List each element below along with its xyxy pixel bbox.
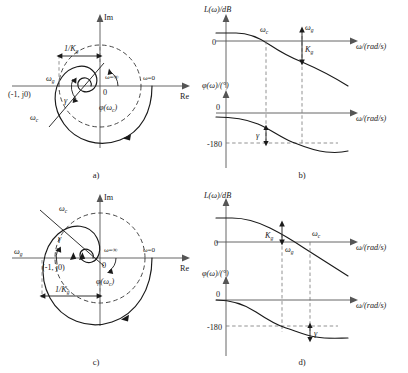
mag-axis-label-b: L(ω)/dB bbox=[203, 5, 231, 14]
phase-curve-b bbox=[216, 117, 348, 152]
phase-axis-label-b: φ(ω)/(°) bbox=[202, 81, 229, 90]
gain-margin-arrow-left-a bbox=[57, 53, 63, 59]
phase-margin-label-b: γ bbox=[256, 131, 260, 140]
phase-180-tick-b: -180 bbox=[207, 140, 222, 149]
panel-caption-d: d) bbox=[298, 357, 305, 367]
mag-zero-tick-b: 0 bbox=[212, 38, 216, 47]
omega-c-label-a: ωc bbox=[30, 113, 39, 123]
omega-c-label-c: ωc bbox=[59, 204, 68, 214]
phase-axis-label-d: φ(ω)/(°) bbox=[202, 269, 229, 278]
panel-caption-b: b) bbox=[298, 170, 305, 180]
axis-real-label-a: Re bbox=[180, 92, 189, 101]
omega-g-label-a: ωg bbox=[46, 74, 55, 84]
phase-angle-label-c: φ(ωc) bbox=[96, 277, 115, 287]
omega-g-label-c: ωg bbox=[14, 247, 23, 257]
omega-zero-label-a: ω=0 bbox=[143, 74, 156, 82]
omega-inf-label-a: ω=∞ bbox=[105, 73, 119, 81]
panel-caption-c: c) bbox=[93, 357, 100, 367]
critical-point-label-c: (-1, j0) bbox=[42, 263, 65, 272]
phase-angle-arrowhead-c bbox=[107, 268, 113, 274]
panel-b-bode-stable: L(ω)/dB 0 ω/(rad/s) ωc ωg Kg φ(ω)/(°) 0 … bbox=[198, 0, 408, 186]
mag-zero-tick-d: 0 bbox=[214, 239, 218, 248]
omega-g-label-d: ωg bbox=[285, 245, 294, 255]
gain-margin-arrow-left-c bbox=[40, 293, 46, 299]
phase-zero-tick-d: 0 bbox=[216, 290, 220, 299]
panel-a-nyquist-stable: Im Re 0 (-1, j0) ω=0 ω=∞ ωg ωc 1/Kg γ φ(… bbox=[0, 0, 200, 186]
axis-imag-arrow-c bbox=[97, 194, 104, 202]
freq-axis-label-phase-b: ω/(rad/s) bbox=[356, 114, 387, 123]
origin-label-a: 0 bbox=[103, 88, 107, 97]
axis-real-arrow-a bbox=[182, 83, 190, 90]
panel-caption-a: a) bbox=[93, 170, 100, 180]
omega-zero-label-c: ω=0 bbox=[143, 246, 156, 254]
gain-margin-arrow-up-b bbox=[299, 27, 305, 33]
phase-curve-d bbox=[216, 300, 348, 338]
mag-axis-label-d: L(ω)/dB bbox=[203, 191, 231, 200]
phase-margin-arrow-down-b bbox=[263, 141, 268, 146]
gain-margin-label-b: Kg bbox=[304, 45, 313, 55]
panel-d-bode-unstable: L(ω)/dB 0 ω/(rad/s) Kg ωg ωc φ(ω)/(°) 0 … bbox=[198, 186, 408, 373]
freq-axis-label-phase-d: ω/(rad/s) bbox=[356, 301, 387, 310]
axis-imag-arrow-a bbox=[97, 14, 104, 22]
figure-root: Im Re 0 (-1, j0) ω=0 ω=∞ ωg ωc 1/Kg γ φ(… bbox=[0, 0, 408, 373]
gain-margin-label-a: 1/Kg bbox=[64, 44, 79, 54]
omega-c-label-d: ωc bbox=[312, 229, 321, 239]
freq-axis-label-mag-d: ω/(rad/s) bbox=[356, 243, 387, 252]
axis-imag-label-c: Im bbox=[104, 193, 114, 202]
phase-margin-arrow-down-d bbox=[307, 337, 312, 342]
omega-c-label-b: ωc bbox=[260, 25, 269, 35]
axis-real-label-c: Re bbox=[180, 264, 189, 273]
phase-angle-label-a: φ(ωc) bbox=[99, 103, 118, 113]
phase-zero-tick-b: 0 bbox=[216, 103, 220, 112]
phase-180-tick-d: -180 bbox=[207, 323, 222, 332]
axis-real-arrow-c bbox=[182, 255, 190, 262]
critical-point-label-a: (-1, j0) bbox=[8, 90, 31, 99]
panel-c-nyquist-unstable: Im Re 0 (-1, j0) ω=0 ω=∞ ωg ωc 1/Kg γ φ(… bbox=[0, 186, 200, 373]
direction-arrow-a bbox=[123, 134, 131, 140]
origin-label-c: 0 bbox=[102, 261, 106, 270]
gain-margin-arrow-up-d bbox=[279, 221, 285, 227]
omega-c-radial-a bbox=[49, 63, 104, 127]
gain-margin-label-d: Kg bbox=[264, 231, 273, 241]
mag-yaxis-arrow-b bbox=[223, 14, 230, 22]
omega-inf-label-c: ω=∞ bbox=[104, 246, 118, 254]
axis-imag-label-a: Im bbox=[104, 13, 114, 22]
gain-margin-label-c: 1/Kg bbox=[55, 285, 70, 295]
phase-angle-arc-c bbox=[109, 258, 116, 271]
radial-arrow-1-c bbox=[70, 252, 76, 260]
phase-yaxis-arrow-b bbox=[223, 90, 230, 98]
omega-g-label-b: ωg bbox=[305, 23, 314, 33]
gain-margin-arrow-down-d bbox=[279, 240, 285, 246]
phase-margin-arrow-up-d bbox=[307, 323, 312, 328]
freq-axis-label-mag-b: ω/(rad/s) bbox=[356, 42, 387, 51]
phase-margin-label-a: γ bbox=[64, 96, 68, 105]
